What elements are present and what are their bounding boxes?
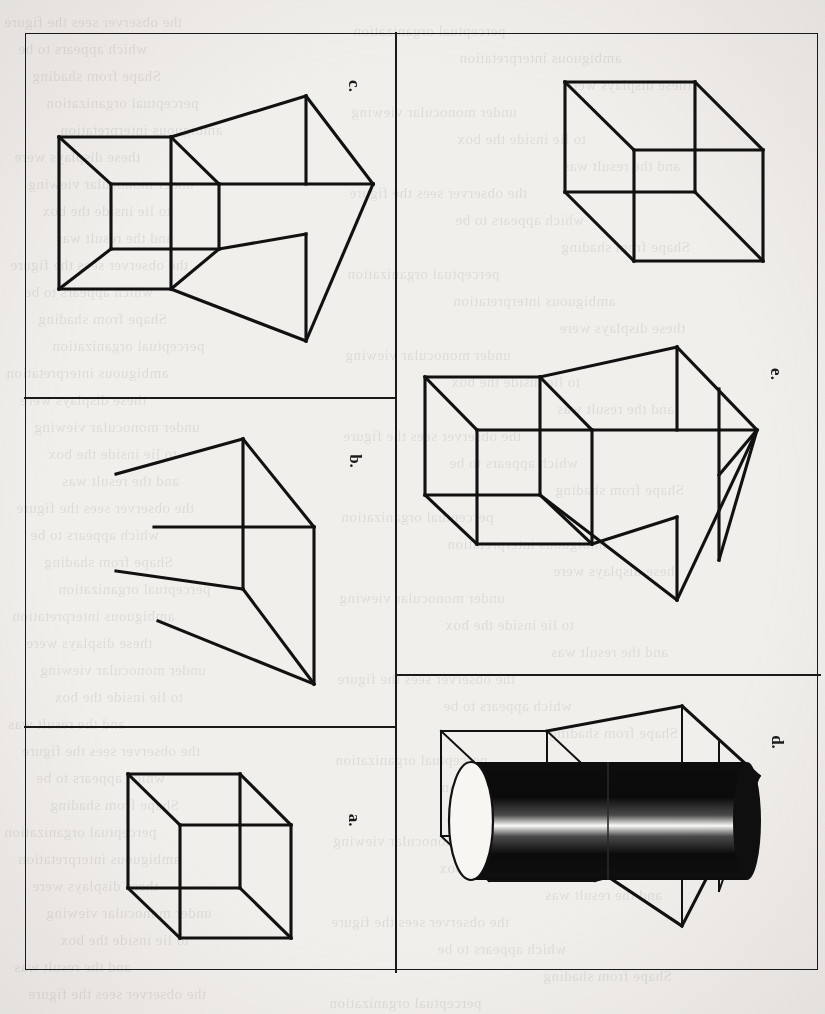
figure-plate: c. b. [25,33,818,970]
panel-e-label: e. [766,368,786,380]
bleed-line: perceptual organization [329,995,481,1012]
bleed-line: the observer sees the figure [4,14,182,31]
bleed-line: the observer sees the figure [28,986,206,1003]
panel-a: a. [26,728,395,971]
panel-d: d. [397,676,819,971]
unlabeled-cube-drawing [397,40,819,340]
panel-d-drawing [397,676,819,971]
panel-b-drawing [26,399,395,726]
panel-e-drawing [397,332,819,672]
panel-a-label: a. [344,814,364,827]
panel-b: b. [26,399,395,726]
panel-c-drawing [26,34,395,397]
panel-d-label: d. [767,735,787,749]
cylinder [449,760,761,881]
panel-b-label: b. [345,454,365,468]
panel-a-drawing [26,728,395,971]
panel-c: c. [26,34,395,397]
panel-right-top: e. [397,34,819,674]
panel-c-label: c. [344,80,364,92]
